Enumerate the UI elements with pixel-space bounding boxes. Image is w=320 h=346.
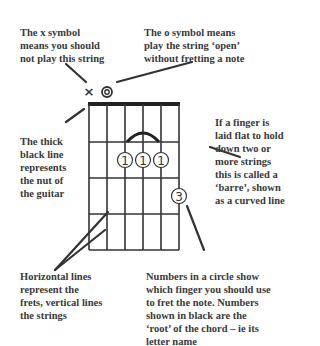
annotation-line: play the string ‘open’ — [144, 39, 244, 52]
annotation-line: represents — [20, 161, 66, 174]
annotation-line: letter name — [146, 335, 271, 346]
annotation-line: the guitar — [20, 187, 66, 200]
annotation-numbers: Numbers in a circle show which finger yo… — [146, 270, 271, 346]
annotation-line: black line — [20, 148, 66, 161]
annotation-line: more strings — [215, 155, 285, 168]
annotation-line: The o symbol means — [144, 26, 244, 39]
strings — [89, 104, 179, 250]
annotation-frets: Horizontal lines represent the frets, ve… — [20, 270, 102, 322]
finger-label: 1 — [139, 154, 147, 168]
nut — [88, 102, 180, 106]
annotation-line: this is called a — [215, 168, 285, 181]
annotation-o-symbol: The o symbol means play the string ‘open… — [144, 26, 244, 65]
annotation-line: without fretting a note — [144, 52, 244, 65]
annotation-line: If a finger is — [215, 116, 285, 129]
annotation-line: shown in black are the — [146, 309, 271, 322]
annotation-line: not play this string — [20, 52, 104, 65]
finger-label: 1 — [121, 154, 129, 168]
annotation-line: means you should — [20, 39, 104, 52]
annotation-line: the strings — [20, 309, 102, 322]
annotation-line: frets, vertical lines — [20, 296, 102, 309]
annotation-line: Numbers in a circle show — [146, 270, 271, 283]
finger-label: 3 — [175, 190, 183, 204]
annotation-line: The thick — [20, 135, 66, 148]
annotation-x-symbol: The x symbol means you should not play t… — [20, 26, 104, 65]
open-string-icon — [102, 87, 112, 97]
annotation-line: to fret the note. Numbers — [146, 296, 271, 309]
annotation-line: which finger you should use — [146, 283, 271, 296]
annotation-barre: If a finger is laid flat to hold down tw… — [215, 116, 285, 207]
annotation-line: laid flat to hold — [215, 129, 285, 142]
muted-string-icon: × — [84, 84, 95, 99]
finger-label: 1 — [157, 154, 165, 168]
annotation-line: The x symbol — [20, 26, 104, 39]
annotation-line: ‘root’ of the chord – ie its — [146, 322, 271, 335]
annotation-line: ‘barre’, shown — [215, 181, 285, 194]
annotation-nut: The thick black line represents the nut … — [20, 135, 66, 200]
annotation-line: as a curved line — [215, 194, 285, 207]
annotation-line: down two or — [215, 142, 285, 155]
annotation-line: represent the — [20, 283, 102, 296]
annotation-line: Horizontal lines — [20, 270, 102, 283]
annotation-line: the nut of — [20, 174, 66, 187]
